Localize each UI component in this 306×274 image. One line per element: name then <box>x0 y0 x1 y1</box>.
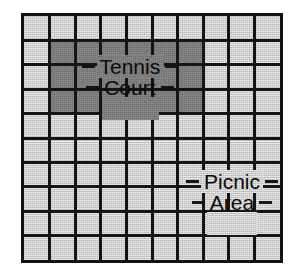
grid-cell <box>50 89 76 113</box>
grid-cell <box>229 89 255 113</box>
leader-line-left-icon <box>192 201 205 204</box>
grid-cell <box>126 187 152 211</box>
grid-cell <box>50 65 76 89</box>
grid-line-horizontal <box>24 161 280 164</box>
grid-cell <box>50 211 76 235</box>
grid-cell <box>178 114 204 138</box>
grid-cell <box>203 40 229 64</box>
grid-cell <box>178 236 204 260</box>
callout-tennis-line-2: Court <box>82 77 179 98</box>
grid-cell <box>254 65 280 89</box>
grid-cell <box>50 138 76 162</box>
grid-cell <box>254 211 280 235</box>
leader-line-right-icon <box>161 86 174 89</box>
leader-line-right-icon <box>165 65 178 68</box>
grid-cell <box>178 211 204 235</box>
figure-canvas: Tennis Court Picnic Area <box>0 0 306 274</box>
picnic-area-label-line-2: Area <box>207 192 257 213</box>
leader-line-left-icon <box>186 180 199 183</box>
grid-cell <box>101 187 127 211</box>
grid-cell <box>24 138 50 162</box>
grid-cell <box>75 211 101 235</box>
grid-cell <box>126 138 152 162</box>
grid-cell <box>126 16 152 40</box>
grid-cell <box>229 40 255 64</box>
callout-picnic-area: Picnic Area <box>186 171 278 214</box>
grid-cell <box>75 162 101 186</box>
grid-cell <box>126 236 152 260</box>
grid-cell <box>152 187 178 211</box>
grid-cell <box>50 16 76 40</box>
callout-picnic-line-2: Area <box>186 192 278 213</box>
grid-cell <box>50 162 76 186</box>
grid-cell <box>178 65 204 89</box>
grid-cell <box>101 138 127 162</box>
grid-cell <box>24 187 50 211</box>
callout-tennis-line-1: Tennis <box>82 56 179 77</box>
grid-cell <box>24 236 50 260</box>
callout-tennis-court: Tennis Court <box>82 56 179 99</box>
grid-cell <box>203 138 229 162</box>
grid-cell <box>203 236 229 260</box>
grid-cell <box>178 40 204 64</box>
grid-cell <box>24 65 50 89</box>
grid-cell <box>101 16 127 40</box>
callout-picnic-line-1: Picnic <box>186 171 278 192</box>
grid-line-horizontal <box>24 234 280 237</box>
grid-cell <box>24 114 50 138</box>
grid-cell <box>24 89 50 113</box>
grid-cell <box>50 40 76 64</box>
grid-cell <box>24 162 50 186</box>
grid-cell <box>229 138 255 162</box>
grid-cell <box>126 162 152 186</box>
grid-cell <box>75 138 101 162</box>
grid-cell <box>203 114 229 138</box>
grid-cell <box>254 89 280 113</box>
grid-cell <box>203 16 229 40</box>
tennis-court-label-line-1: Tennis <box>97 56 164 77</box>
grid-cell <box>178 138 204 162</box>
leader-line-left-icon <box>82 65 95 68</box>
grid-cell <box>254 138 280 162</box>
grid-cell <box>229 65 255 89</box>
label-backplate <box>102 97 159 120</box>
grid-cell <box>24 16 50 40</box>
grid-cell <box>101 211 127 235</box>
grid-cell <box>254 16 280 40</box>
grid-cell <box>178 16 204 40</box>
grid-cell <box>229 16 255 40</box>
leader-line-right-icon <box>259 201 272 204</box>
tennis-court-label-line-2: Court <box>101 77 158 98</box>
grid-cell <box>101 236 127 260</box>
grid-cell <box>254 40 280 64</box>
label-backplate <box>207 212 257 235</box>
grid-cell <box>24 40 50 64</box>
grid-cell <box>178 89 204 113</box>
grid-cell <box>75 236 101 260</box>
grid-cell <box>24 211 50 235</box>
leader-line-left-icon <box>86 86 99 89</box>
grid-cell <box>254 114 280 138</box>
grid-cell <box>75 114 101 138</box>
grid-cell <box>152 211 178 235</box>
grid-cell <box>50 236 76 260</box>
grid-cell <box>50 187 76 211</box>
grid-cell <box>101 162 127 186</box>
grid-cell <box>229 114 255 138</box>
leader-line-right-icon <box>265 180 278 183</box>
grid-cell <box>152 138 178 162</box>
grid-cell <box>229 236 255 260</box>
grid-cell <box>50 114 76 138</box>
grid-line-horizontal <box>24 137 280 140</box>
picnic-area-label-line-1: Picnic <box>201 171 263 192</box>
grid-cell <box>203 65 229 89</box>
map-frame: Tennis Court Picnic Area <box>21 13 283 263</box>
grid-cell <box>203 89 229 113</box>
grid-cell <box>152 16 178 40</box>
grid-cell <box>75 16 101 40</box>
grid-cell <box>75 187 101 211</box>
grid-line-horizontal <box>24 39 280 42</box>
grid-cell <box>152 236 178 260</box>
grid-cell <box>152 162 178 186</box>
grid-cell <box>126 211 152 235</box>
